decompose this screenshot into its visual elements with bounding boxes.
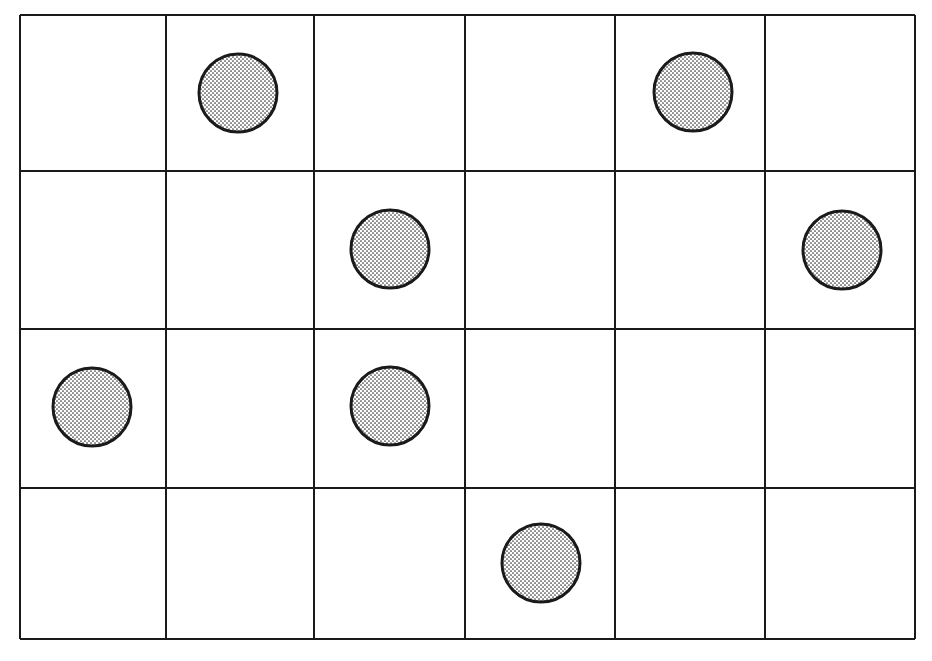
markers xyxy=(53,53,881,602)
stippled-circle-marker-r0-c4 xyxy=(654,53,732,131)
stippled-circle-marker-r0-c1 xyxy=(199,54,277,132)
stippled-circle-marker-r2-c2 xyxy=(351,367,429,445)
grid-lines xyxy=(20,15,915,639)
grid-diagram xyxy=(0,0,932,661)
stippled-circle-marker-r1-c2 xyxy=(351,210,429,288)
stippled-circle-marker-r3-c3 xyxy=(502,524,580,602)
stippled-circle-marker-r2-c0 xyxy=(53,368,131,446)
stippled-circle-marker-r1-c5 xyxy=(803,211,881,289)
